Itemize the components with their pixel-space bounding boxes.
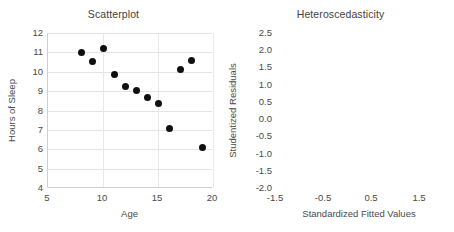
y-axis-tick-label: 10 <box>10 67 43 77</box>
gridline-horizontal <box>48 33 212 34</box>
data-point <box>144 94 151 101</box>
gridline-vertical <box>103 33 104 187</box>
x-axis-tick-label: 10 <box>97 193 108 203</box>
plot-area-scatterplot <box>47 33 212 188</box>
x-axis-tick-label: 15 <box>152 193 163 203</box>
x-axis-tick-label: -0.5 <box>315 193 331 203</box>
y-axis-tick-label: 6 <box>10 145 43 155</box>
x-axis-tick-label: 20 <box>207 193 218 203</box>
x-axis-tick-label: 1.5 <box>412 193 425 203</box>
data-point <box>122 83 129 90</box>
figure-root: Scatterplot 4567891011125101520AgeHours … <box>0 0 454 232</box>
data-point <box>89 58 96 65</box>
gridline-horizontal <box>48 111 212 112</box>
data-point <box>100 45 107 52</box>
gridline-vertical <box>158 33 159 187</box>
data-point <box>155 100 162 107</box>
gridline-horizontal <box>48 72 212 73</box>
y-axis-tick-label: 11 <box>10 48 43 58</box>
chart-panel-scatterplot: Scatterplot 4567891011125101520AgeHours … <box>0 0 227 232</box>
y-axis-tick-label: 4 <box>10 183 43 193</box>
x-axis-title: Standardized Fitted Values <box>275 208 443 219</box>
data-point <box>166 125 173 132</box>
y-axis-tick-label: 2.0 <box>231 45 272 55</box>
gridline-horizontal <box>48 169 212 170</box>
data-point <box>111 71 118 78</box>
gridline-horizontal <box>48 130 212 131</box>
chart-panel-heteroscedasticity: Heteroscedasticity -2.0-1.5-1.0-0.50.00.… <box>227 0 454 232</box>
y-axis-tick-label: 12 <box>10 28 43 38</box>
y-axis-tick-label: 5 <box>10 164 43 174</box>
data-point <box>188 57 195 64</box>
data-point <box>199 144 206 151</box>
chart-title: Heteroscedasticity <box>227 8 454 20</box>
gridline-vertical <box>213 33 214 187</box>
y-axis-title: Hours of Sleep <box>5 79 16 142</box>
y-axis-tick-label: 2.5 <box>231 28 272 38</box>
y-axis-tick-label: -1.5 <box>231 166 272 176</box>
data-point <box>177 66 184 73</box>
y-axis-title: Studentized Residuals <box>226 63 237 158</box>
gridline-horizontal <box>48 149 212 150</box>
x-axis-tick-label: 0.5 <box>364 193 377 203</box>
x-axis-title: Age <box>47 208 212 219</box>
x-axis-tick-label: -1.5 <box>267 193 283 203</box>
data-point <box>133 87 140 94</box>
gridline-horizontal <box>48 52 212 53</box>
chart-title: Scatterplot <box>0 8 227 20</box>
gridline-horizontal <box>48 91 212 92</box>
x-axis-tick-label: 5 <box>44 193 49 203</box>
data-point <box>78 49 85 56</box>
